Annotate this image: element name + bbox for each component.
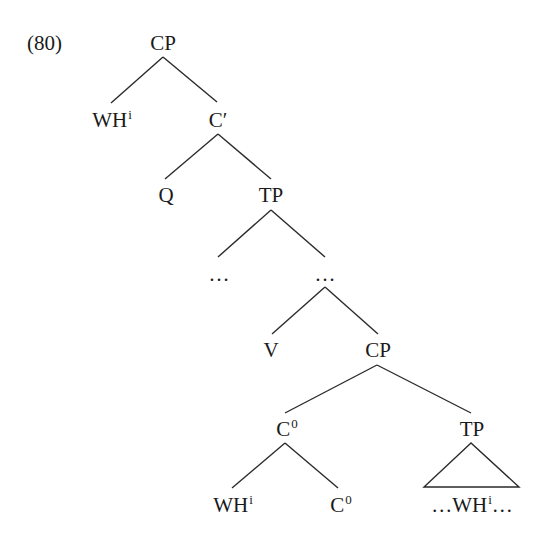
edge-c0-wh	[232, 443, 285, 488]
node-tp-content: …WHi…	[431, 494, 513, 519]
node-label: CP	[365, 338, 391, 362]
node-label: WH	[92, 108, 127, 132]
node-v: V	[263, 339, 278, 361]
node-cp-embedded: CP	[365, 339, 391, 361]
node-label: C′	[209, 108, 228, 132]
node-label: C	[330, 493, 344, 517]
node-tp: TP	[259, 184, 284, 206]
node-label: …	[315, 262, 336, 286]
edge-cp-tp	[377, 365, 471, 413]
node-cp-root: CP	[150, 32, 176, 54]
index-superscript: i	[128, 107, 132, 122]
node-label: TP	[259, 183, 284, 207]
node-label: Q	[158, 183, 173, 207]
node-tp-embedded: TP	[460, 418, 485, 440]
node-label: CP	[150, 31, 176, 55]
node-dots-right: …	[315, 263, 336, 285]
edge-cp-c0	[285, 365, 377, 413]
edge-cbar-tp	[218, 134, 271, 179]
edge-dots-v	[272, 287, 325, 334]
node-wh-lower: WHi	[213, 494, 253, 519]
edge-cbar-q	[165, 134, 218, 179]
tree-edges	[0, 0, 551, 534]
zero-superscript: 0	[291, 416, 298, 431]
node-wh-spec: WHi	[92, 109, 132, 134]
node-c-bar: C′	[209, 109, 228, 131]
edge-dots-cp	[325, 287, 378, 334]
zero-superscript: 0	[345, 492, 352, 507]
content-prefix: …WH	[431, 493, 487, 517]
node-label: C	[276, 417, 290, 441]
index-superscript: i	[249, 492, 253, 507]
edge-cp-wh	[111, 57, 163, 103]
node-label: V	[263, 338, 278, 362]
node-label: …	[209, 262, 230, 286]
edge-tp-dotsleft	[218, 210, 271, 257]
edge-cp-cbar	[163, 57, 217, 102]
node-c0-lower: C0	[330, 494, 352, 519]
content-suffix: …	[492, 493, 513, 517]
example-number: (80)	[27, 32, 62, 54]
edge-c0-c0	[285, 443, 338, 488]
index-superscript: i	[488, 492, 492, 507]
node-c0-upper: C0	[276, 418, 298, 443]
tp-triangle	[424, 443, 519, 487]
edge-tp-dotsright	[271, 210, 325, 257]
node-q: Q	[158, 184, 173, 206]
node-dots-left: …	[209, 263, 230, 285]
node-label: WH	[213, 493, 248, 517]
node-label: TP	[460, 417, 485, 441]
